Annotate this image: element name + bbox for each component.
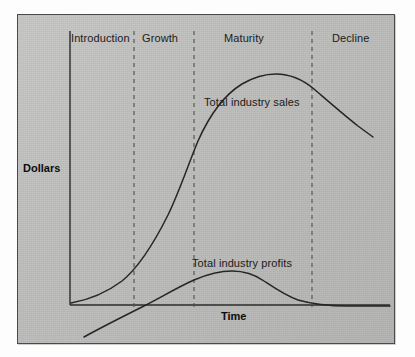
chart-frame: Introduction Growth Maturity Decline Dol… [17,14,395,344]
stage-label-decline: Decline [332,32,369,44]
profits-curve [84,271,390,337]
stage-label-maturity: Maturity [224,32,264,44]
product-life-cycle-chart [18,15,394,343]
stage-label-introduction: Introduction [71,32,130,44]
sales-curve-label: Total industry sales [204,96,300,108]
figure-page: Introduction Growth Maturity Decline Dol… [0,0,415,357]
y-axis-title: Dollars [23,162,60,174]
x-axis-title: Time [221,310,246,322]
stage-label-growth: Growth [142,32,178,44]
profits-curve-label: Total industry profits [192,257,292,269]
